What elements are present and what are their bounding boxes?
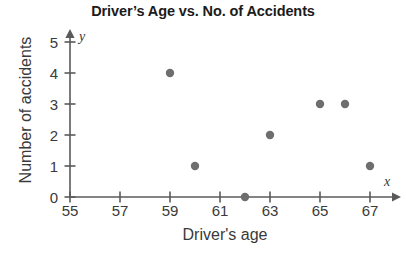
data-point xyxy=(241,193,249,201)
x-tick-label-55: 55 xyxy=(62,202,79,219)
data-point xyxy=(166,69,174,77)
data-points-group xyxy=(166,69,374,201)
x-tick-label-61: 61 xyxy=(212,202,229,219)
x-tick-label-67: 67 xyxy=(362,202,379,219)
data-point xyxy=(341,100,349,108)
x-tick-labels: 55 57 59 61 63 65 67 xyxy=(62,202,379,219)
y-axis-arrowhead xyxy=(65,29,74,38)
y-tick-label-4: 4 xyxy=(50,65,58,82)
y-axis-symbol-label: y xyxy=(77,29,86,44)
y-tick-label-5: 5 xyxy=(50,34,58,51)
chart-page: Driver’s Age vs. No. of Accidents xyxy=(0,0,406,256)
data-point xyxy=(266,131,274,139)
y-tick-label-0: 0 xyxy=(50,189,58,206)
y-tick-label-3: 3 xyxy=(50,96,58,113)
scatter-plot-canvas: 55 57 59 61 63 65 67 0 1 2 3 4 5 x y xyxy=(0,0,406,256)
y-axis xyxy=(65,29,74,197)
x-tick-label-57: 57 xyxy=(112,202,129,219)
x-axis-title: Driver's age xyxy=(70,226,380,244)
y-tick-label-2: 2 xyxy=(50,127,58,144)
data-point xyxy=(316,100,324,108)
data-point xyxy=(366,162,374,170)
x-tick-label-65: 65 xyxy=(312,202,329,219)
y-tick-labels: 0 1 2 3 4 5 xyxy=(50,34,58,206)
y-axis-title: Number of accidents xyxy=(17,20,35,200)
x-tick-label-63: 63 xyxy=(262,202,279,219)
y-tick-label-1: 1 xyxy=(50,158,58,175)
x-axis-symbol-label: x xyxy=(383,174,391,189)
data-point xyxy=(191,162,199,170)
x-tick-label-59: 59 xyxy=(162,202,179,219)
x-axis-arrowhead xyxy=(392,192,401,201)
